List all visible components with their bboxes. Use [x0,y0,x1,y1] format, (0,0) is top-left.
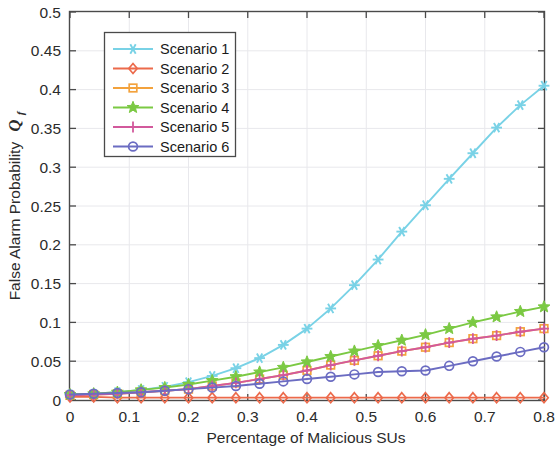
y-axis-tick-labels: 00.050.10.150.20.250.30.350.40.450.5 [31,4,62,409]
y-tick-label: 0.15 [31,275,61,292]
data-marker-star [349,345,361,356]
legend-item-label: Scenario 4 [160,100,229,116]
x-tick-label: 0.5 [355,408,377,425]
data-marker-star [467,316,479,327]
y-tick-label: 0.1 [39,314,61,331]
line-chart: 00.10.20.30.40.50.60.70.8 00.050.10.150.… [0,0,557,455]
y-tick-label: 0.5 [39,4,61,21]
data-marker-star [514,305,526,316]
x-axis-title: Percentage of Malicious SUs [206,429,405,446]
data-marker-star [372,339,384,350]
y-tick-label: 0.35 [31,120,61,137]
y-axis-title-symbol: Q [5,120,24,132]
chart-figure: 00.10.20.30.40.50.60.70.8 00.050.10.150.… [0,0,557,455]
y-tick-label: 0.25 [31,198,61,215]
x-axis-tick-labels: 00.10.20.30.40.50.60.70.8 [66,408,555,425]
x-tick-label: 0.8 [533,408,555,425]
svg-text:False Alarm Probability: False Alarm Probability Q f [5,110,26,300]
y-tick-label: 0.05 [31,353,61,370]
x-tick-label: 0.7 [474,408,496,425]
y-axis-title: False Alarm Probability Q f [5,110,26,300]
y-tick-label: 0.2 [39,236,61,253]
legend: Scenario 1Scenario 2Scenario 3Scenario 4… [105,33,236,157]
legend-item-label: Scenario 6 [160,139,229,155]
data-marker-star [396,334,408,345]
y-tick-label: 0.45 [31,42,61,59]
y-axis-title-text: False Alarm Probability [6,142,23,301]
x-tick-label: 0 [66,408,75,425]
data-marker-star [443,322,455,333]
legend-item-label: Scenario 1 [160,41,229,57]
x-tick-label: 0.4 [296,408,318,425]
y-tick-label: 0.3 [39,159,61,176]
y-tick-label: 0.4 [39,81,61,98]
x-tick-label: 0.6 [415,408,437,425]
legend-item-label: Scenario 5 [160,119,229,135]
x-tick-label: 0.3 [237,408,259,425]
legend-item-label: Scenario 2 [160,61,229,77]
x-tick-label: 0.1 [118,408,140,425]
data-marker-star [491,311,503,322]
x-tick-label: 0.2 [178,408,200,425]
y-tick-label: 0 [52,392,61,409]
legend-item-label: Scenario 3 [160,80,229,96]
y-axis-title-subscript: f [14,110,26,115]
